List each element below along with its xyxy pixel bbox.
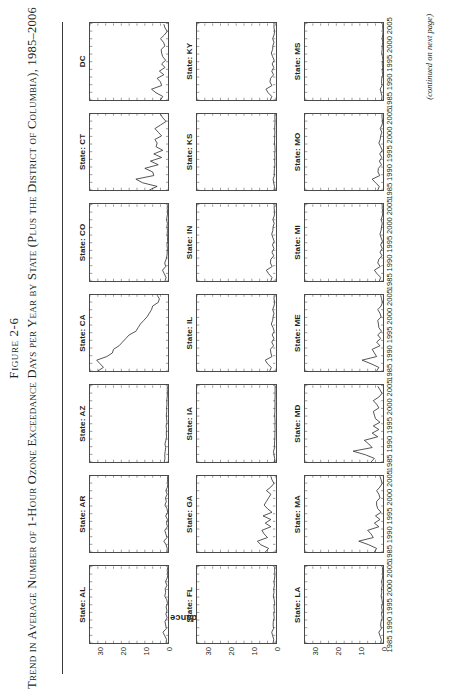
x-tick-labels: 19851990199520002005: [385, 294, 398, 373]
panel-plot: [304, 22, 384, 101]
x-tick-label: 2005: [385, 289, 394, 306]
x-tick-label: 2000: [385, 398, 394, 415]
x-tick-label: 1990: [385, 164, 394, 181]
y-tick-label: 30: [96, 647, 105, 655]
panel-strip-label: State: FL: [183, 565, 196, 644]
y-tick-label: 20: [226, 647, 235, 655]
figure-title: Trend in Average Number of 1-Hour Ozone …: [25, 0, 40, 696]
y-tick-label: 20: [334, 647, 343, 655]
x-tick-label: 2005: [385, 380, 394, 397]
x-tick-label: 1990: [385, 617, 394, 634]
y-tick-label: 10: [357, 647, 366, 655]
panel-strip-label: State: ME: [291, 294, 304, 373]
panel-ct: State: CT: [76, 113, 169, 192]
panel-plot: [89, 565, 169, 644]
x-tick-label: 1995: [385, 145, 394, 162]
panel-co: State: CO: [76, 203, 169, 282]
panel-strip-label: State: MO: [291, 113, 304, 192]
x-tick-labels: 19851990199520002005: [385, 113, 398, 192]
panel-plot: [89, 475, 169, 554]
x-tick-label: 1985: [385, 454, 394, 471]
panel-al: State: AL 0102030: [76, 565, 169, 644]
x-tick-label: 1985: [385, 92, 394, 109]
x-tick-label: 1995: [385, 55, 394, 72]
panel-plot: [196, 294, 276, 373]
continued-note: (continued on next page): [424, 14, 434, 100]
panel-strip-label: State: AR: [76, 475, 89, 554]
panel-in: State: IN: [183, 203, 276, 282]
x-tick-label: 1995: [385, 508, 394, 525]
figure-page: Figure 2-6 Trend in Average Number of 1-…: [0, 0, 452, 696]
panel-plot: [89, 22, 169, 101]
y-tick-label: 20: [119, 647, 128, 655]
x-tick-label: 2005: [385, 561, 394, 578]
panel-plot: [304, 475, 384, 554]
panel-ks: State: KS: [183, 113, 276, 192]
x-tick-label: 2000: [385, 308, 394, 325]
x-tick-label: 1990: [385, 73, 394, 90]
panel-me: State: ME 19851990199520002005: [291, 294, 384, 373]
x-tick-label: 1985: [385, 636, 394, 653]
x-tick-labels: 19851990199520002005: [385, 565, 398, 644]
panel-mi: State: MI 19851990199520002005: [291, 203, 384, 282]
x-tick-label: 1990: [385, 255, 394, 272]
x-tick-label: 1995: [385, 236, 394, 253]
panel-strip-label: State: IN: [183, 203, 196, 282]
x-tick-label: 2000: [385, 579, 394, 596]
panel-strip-label: State: AL: [76, 565, 89, 644]
panel-plot: [304, 384, 384, 463]
x-tick-label: 1990: [385, 345, 394, 362]
panel-plot: [196, 203, 276, 282]
panel-strip-label: State: MA: [291, 475, 304, 554]
panel-ma: State: MA 19851990199520002005: [291, 475, 384, 554]
panel-ga: State: GA: [183, 475, 276, 554]
y-tick-labels: 0102030: [89, 646, 169, 666]
panel-strip-label: State: CO: [76, 203, 89, 282]
panel-strip-label: State: IL: [183, 294, 196, 373]
panel-plot: [196, 113, 276, 192]
panel-ca: State: CA: [76, 294, 169, 373]
panel-plot: [196, 384, 276, 463]
x-tick-label: 2000: [385, 36, 394, 53]
panel-la: State: LA 010203019851990199520002005: [291, 565, 384, 644]
x-tick-labels: 19851990199520002005: [385, 203, 398, 282]
x-tick-label: 1995: [385, 326, 394, 343]
panel-az: State: AZ: [76, 384, 169, 463]
panel-strip-label: State: IA: [183, 384, 196, 463]
x-tick-labels: 19851990199520002005: [385, 475, 398, 554]
y-tick-label: 30: [311, 647, 320, 655]
panel-strip-label: State: GA: [183, 475, 196, 554]
x-tick-label: 1990: [385, 436, 394, 453]
panel-plot: [304, 113, 384, 192]
x-tick-label: 1985: [385, 364, 394, 381]
panel-plot: [304, 565, 384, 644]
panel-grid: State: AL 0102030State: AR State: AZ Sta…: [76, 22, 384, 644]
x-tick-label: 2000: [385, 217, 394, 234]
panel-strip-label: State: MD: [291, 384, 304, 463]
x-tick-label: 1995: [385, 598, 394, 615]
panel-ia: State: IA: [183, 384, 276, 463]
panel-strip-label: State: AZ: [76, 384, 89, 463]
panel-plot: [89, 203, 169, 282]
panel-plot: [196, 22, 276, 101]
panel-strip-label: DC: [76, 22, 89, 101]
panel-strip-label: State: LA: [291, 565, 304, 644]
panel-md: State: MD 19851990199520002005: [291, 384, 384, 463]
panel-mo: State: MO 19851990199520002005: [291, 113, 384, 192]
panel-strip-label: State: MS: [291, 22, 304, 101]
x-tick-label: 2005: [385, 108, 394, 125]
x-tick-label: 1995: [385, 417, 394, 434]
x-tick-labels: 19851990199520002005: [385, 22, 398, 101]
y-tick-labels: 0102030: [304, 646, 384, 666]
y-tick-label: 30: [203, 647, 212, 655]
figure-caption: Figure 2-6 Trend in Average Number of 1-…: [6, 0, 64, 696]
panel-plot: [89, 113, 169, 192]
panel-ms: State: MS 19851990199520002005: [291, 22, 384, 101]
panel-plot: [304, 294, 384, 373]
x-tick-label: 2005: [385, 470, 394, 487]
panel-plot: [196, 565, 276, 644]
panel-plot: [89, 294, 169, 373]
panel-strip-label: State: KS: [183, 113, 196, 192]
panel-plot: [304, 203, 384, 282]
x-tick-label: 1985: [385, 273, 394, 290]
